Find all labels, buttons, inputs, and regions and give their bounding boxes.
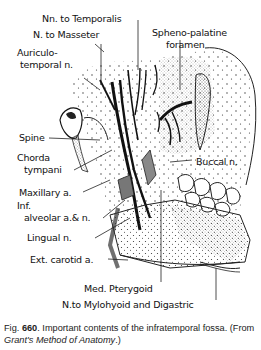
label-lingual-n: Lingual n. xyxy=(27,233,72,243)
label-auriculotemporal-2: temporal n. xyxy=(20,60,73,70)
label-buccal-n: Buccal n. xyxy=(196,157,238,167)
label-med-pterygoid: Med. Pterygoid xyxy=(84,284,153,294)
label-inf-alveolar-2: alveolar a.& n. xyxy=(24,213,90,223)
caption-source: Grant's Method of Anatomy xyxy=(4,335,115,345)
label-inf-alveolar: Inf. xyxy=(17,201,31,211)
caption-text: . Important contents of the infratempora… xyxy=(37,323,254,333)
label-nn-to-temporalis: Nn. to Temporalis xyxy=(42,14,121,24)
anatomy-illustration: Nn. to Temporalis N. to Masseter Auricul… xyxy=(0,0,261,305)
label-n-to-mylohyoid: N.to Mylohyoid and Digastric xyxy=(62,300,194,310)
label-spheno-palatine-2: foramen xyxy=(166,40,205,50)
caption-fig-prefix: Fig. xyxy=(4,323,19,333)
label-ext-carotid: Ext. carotid a. xyxy=(30,255,93,265)
label-auriculotemporal: Auriculo- xyxy=(17,48,58,58)
caption-fig-number: 660 xyxy=(22,323,37,333)
label-chorda-tympani-2: tympani xyxy=(24,165,62,175)
label-maxillary-a: Maxillary a. xyxy=(19,188,71,198)
figure-caption: Fig. 660. Important contents of the infr… xyxy=(4,322,258,346)
label-spheno-palatine: Spheno-palatine xyxy=(152,28,227,38)
label-n-to-masseter: N. to Masseter xyxy=(33,30,99,40)
caption-suffix: .) xyxy=(115,335,121,345)
label-spine: Spine xyxy=(19,133,45,143)
label-chorda-tympani: Chorda xyxy=(17,153,50,163)
